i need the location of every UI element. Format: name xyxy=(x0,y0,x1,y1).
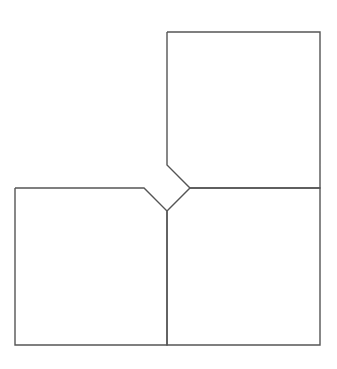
three-squares-diagram xyxy=(0,0,337,369)
bottom-right-square xyxy=(167,188,320,345)
bottom-left-square xyxy=(15,188,167,345)
top-right-square xyxy=(167,32,320,188)
